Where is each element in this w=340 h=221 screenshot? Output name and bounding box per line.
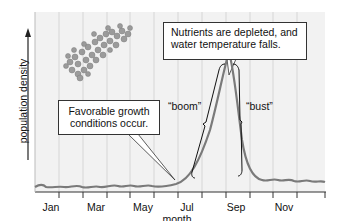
bust-label: “bust” — [246, 100, 273, 112]
boom-label: “boom” — [168, 100, 201, 112]
top-callout-text: Nutrients are depleted, and water temper… — [171, 26, 298, 50]
x-axis-label: month — [162, 213, 191, 221]
left-callout: Favorable growth conditions occur. — [58, 100, 160, 135]
x-tick-may: May — [133, 201, 153, 213]
x-tick-nov: Nov — [275, 201, 294, 213]
y-axis-label: population density — [17, 46, 29, 156]
x-ticks — [59, 192, 325, 198]
x-tick-jul: Jul — [180, 201, 193, 213]
left-callout-text: Favorable growth conditions occur. — [68, 105, 149, 129]
top-callout: Nutrients are depleted, and water temper… — [163, 22, 307, 60]
x-tick-sep: Sep — [227, 201, 246, 213]
x-tick-jan: Jan — [43, 201, 60, 213]
x-tick-mar: Mar — [87, 201, 105, 213]
